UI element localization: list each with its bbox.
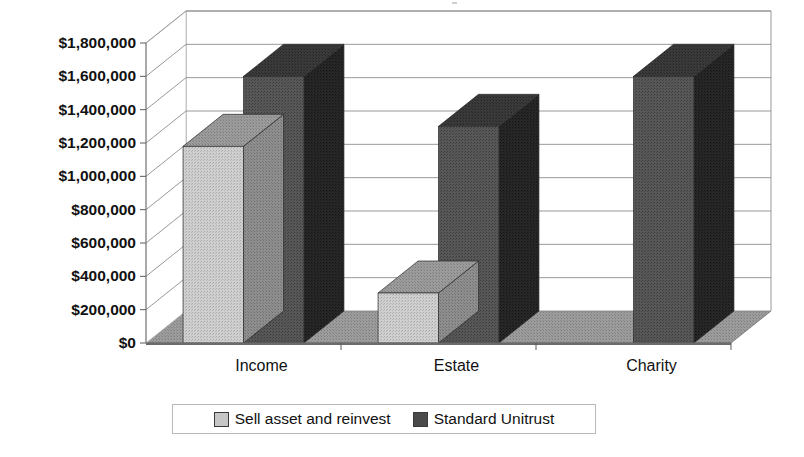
bar-chart-canvas: $0$200,000$400,000$600,000$800,000$1,000… (0, 0, 804, 400)
y-axis-tick-label: $0 (119, 334, 136, 351)
y-axis-tick-label: $1,600,000 (58, 67, 136, 84)
legend-item-standard-unitrust: Standard Unitrust (413, 411, 555, 427)
y-axis-tick-label: $800,000 (71, 201, 136, 218)
y-axis-tick-label: $1,800,000 (58, 34, 136, 51)
legend-item-sell-asset-and-reinvest: Sell asset and reinvest (214, 411, 391, 427)
y-axis-tick-label: $600,000 (71, 234, 136, 251)
y-axis-tick-label: $1,000,000 (58, 167, 136, 184)
legend-label: Standard Unitrust (434, 411, 555, 427)
legend-label: Sell asset and reinvest (235, 411, 391, 427)
x-axis-tick-labels: IncomeEstateCharity (235, 357, 677, 374)
chart-legend: Sell asset and reinvest Standard Unitrus… (172, 404, 596, 434)
y-axis-tick-label: $1,200,000 (58, 134, 136, 151)
y-axis-tick-label: $1,400,000 (58, 101, 136, 118)
bar-income-sell-asset-and-reinvest (183, 114, 283, 343)
x-axis-tick-label: Estate (434, 357, 479, 374)
chart-figure: $0$200,000$400,000$600,000$800,000$1,000… (0, 0, 804, 457)
y-axis-tick-label: $200,000 (71, 301, 136, 318)
y-axis-tick-labels: $0$200,000$400,000$600,000$800,000$1,000… (58, 34, 136, 351)
x-axis-tick-label: Charity (626, 357, 677, 374)
y-axis-tick-label: $400,000 (71, 267, 136, 284)
bar-charity-standard-unitrust (634, 44, 734, 343)
legend-swatch-icon (413, 412, 428, 427)
legend-swatch-icon (214, 412, 229, 427)
x-axis-tick-label: Income (235, 357, 288, 374)
